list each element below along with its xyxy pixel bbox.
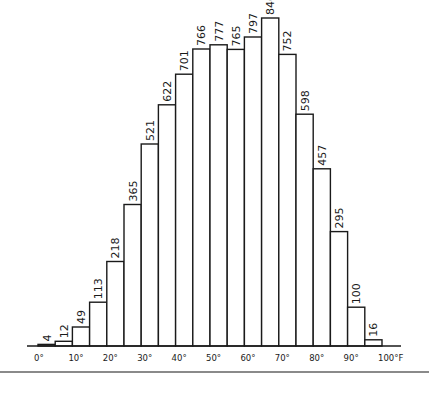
bar-value-label: 846 xyxy=(264,0,277,15)
bar-value-label: 457 xyxy=(316,145,329,166)
histogram-bar xyxy=(244,37,261,346)
bar-value-label: 4 xyxy=(41,334,54,341)
bar-value-label: 765 xyxy=(230,25,243,46)
bar-value-label: 766 xyxy=(195,25,208,46)
histogram-bar xyxy=(227,49,244,346)
histogram-chart: 4124911321836552162270176677776579784675… xyxy=(0,0,429,399)
bar-value-label: 521 xyxy=(144,120,157,141)
x-tick-label: 40° xyxy=(172,353,187,363)
bar-value-label: 701 xyxy=(178,50,191,71)
histogram-bar xyxy=(141,144,158,346)
histogram-bar xyxy=(262,18,279,346)
histogram-bar xyxy=(296,114,313,346)
x-tick-label: 80° xyxy=(309,353,324,363)
histogram-bar xyxy=(210,45,227,346)
histogram-bar xyxy=(193,49,210,346)
x-tick-label: 90° xyxy=(344,353,359,363)
histogram-bar xyxy=(313,169,330,346)
x-tick-label: 50° xyxy=(206,353,221,363)
histogram-bar xyxy=(158,105,175,346)
x-tick-label: 0° xyxy=(34,353,44,363)
histogram-bar xyxy=(107,262,124,347)
x-tick-label: 70° xyxy=(275,353,290,363)
histogram-bar xyxy=(176,74,193,346)
histogram-bar xyxy=(90,302,107,346)
histogram-bars xyxy=(38,18,382,346)
x-axis-tick-labels: 0°10°20°30°40°50°60°70°80°90°100°F xyxy=(34,353,403,363)
bar-value-label: 12 xyxy=(58,324,71,338)
x-tick-label: 60° xyxy=(240,353,255,363)
bar-value-label: 752 xyxy=(281,30,294,51)
bar-value-label: 218 xyxy=(109,238,122,259)
bar-value-label: 598 xyxy=(299,90,312,111)
bar-value-label: 365 xyxy=(127,181,140,202)
histogram-bar xyxy=(330,232,347,346)
histogram-bar xyxy=(72,327,89,346)
bar-value-label: 49 xyxy=(75,310,88,324)
x-tick-label: 20° xyxy=(103,353,118,363)
histogram-bar xyxy=(348,307,365,346)
histogram-bar xyxy=(365,340,382,346)
x-tick-label: 10° xyxy=(68,353,83,363)
histogram-bar xyxy=(55,341,72,346)
histogram-bar xyxy=(124,205,141,347)
x-tick-label: 30° xyxy=(137,353,152,363)
histogram-bar xyxy=(279,54,296,346)
bar-value-label: 622 xyxy=(161,81,174,102)
bar-value-label: 100 xyxy=(350,283,363,304)
x-tick-label: 100°F xyxy=(378,353,403,363)
bar-value-label: 777 xyxy=(213,21,226,42)
bar-value-label: 16 xyxy=(367,323,380,337)
bar-value-label: 797 xyxy=(247,13,260,34)
bar-value-label: 295 xyxy=(333,208,346,229)
bar-value-label: 113 xyxy=(92,278,105,299)
